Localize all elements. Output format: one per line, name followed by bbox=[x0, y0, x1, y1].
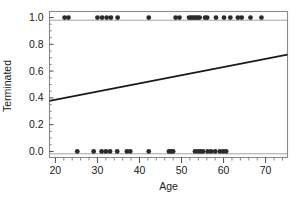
x-tick-label: 50 bbox=[176, 164, 188, 176]
scatter-point bbox=[115, 15, 120, 20]
x-tick-label: 20 bbox=[50, 164, 62, 176]
scatter-point bbox=[128, 149, 133, 154]
x-tick-label: 40 bbox=[134, 164, 146, 176]
scatter-point bbox=[209, 149, 214, 154]
scatter-plot-figure: 0.00.20.40.60.81.0 203040506070 Age Term… bbox=[0, 0, 304, 199]
scatter-point bbox=[213, 149, 218, 154]
scatter-point bbox=[75, 149, 80, 154]
scatter-point bbox=[197, 15, 202, 20]
scatter-point bbox=[214, 15, 219, 20]
x-tick-label: 70 bbox=[260, 164, 272, 176]
scatter-point bbox=[146, 149, 151, 154]
scatter-point bbox=[171, 149, 176, 154]
y-tick-label: 0.2 bbox=[29, 118, 44, 130]
y-tick-label: 1.0 bbox=[29, 11, 44, 23]
y-axis-title: Terminated bbox=[1, 60, 13, 112]
scatter-point bbox=[108, 15, 113, 20]
y-tick-label: 0.4 bbox=[29, 91, 44, 103]
figure-background bbox=[0, 0, 304, 199]
scatter-point bbox=[103, 149, 108, 154]
scatter-point bbox=[100, 15, 105, 20]
scatter-point bbox=[177, 15, 182, 20]
x-tick-label: 30 bbox=[92, 164, 104, 176]
scatter-point bbox=[99, 149, 104, 154]
scatter-point bbox=[224, 149, 229, 154]
scatter-point bbox=[205, 15, 210, 20]
y-tick-label: 0.8 bbox=[29, 38, 44, 50]
x-tick-label: 60 bbox=[218, 164, 230, 176]
scatter-point bbox=[104, 15, 109, 20]
scatter-point bbox=[95, 15, 100, 20]
y-tick-label: 0.0 bbox=[29, 145, 44, 157]
plot-canvas: 0.00.20.40.60.81.0 203040506070 Age Term… bbox=[0, 0, 304, 199]
scatter-point bbox=[248, 15, 253, 20]
scatter-point bbox=[91, 149, 96, 154]
scatter-point bbox=[66, 15, 71, 20]
scatter-point bbox=[115, 149, 120, 154]
x-axis-title: Age bbox=[159, 180, 178, 192]
scatter-point bbox=[201, 149, 206, 154]
scatter-point bbox=[146, 15, 151, 20]
scatter-point bbox=[259, 15, 264, 20]
scatter-point bbox=[222, 15, 227, 20]
scatter-point bbox=[239, 15, 244, 20]
y-tick-label: 0.6 bbox=[29, 65, 44, 77]
scatter-point bbox=[108, 149, 113, 154]
scatter-point bbox=[228, 15, 233, 20]
